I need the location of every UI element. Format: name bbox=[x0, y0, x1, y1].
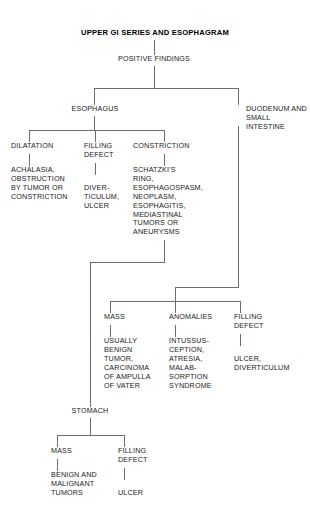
node-stomach-filling-defect: FILLING DEFECT bbox=[118, 447, 162, 465]
connector-title-to-root bbox=[154, 40, 155, 55]
connector-duodenum-jog-down bbox=[175, 287, 176, 301]
connector-constriction-to-stomach-horizontal bbox=[90, 262, 165, 263]
node-stomach-mass: MASS bbox=[51, 447, 101, 456]
connector-stomach-split-bar bbox=[57, 435, 124, 436]
connector-esophagus-filling-defect-to-detail bbox=[95, 163, 96, 175]
connector-stomach-down bbox=[90, 418, 91, 435]
node-esophagus: ESOPHAGUS bbox=[64, 105, 126, 114]
detail-duodenum-mass: USUALLY BENIGN TUMOR, CARCINOMA OF AMPUL… bbox=[104, 337, 166, 390]
node-dilatation: DILATATION bbox=[11, 142, 83, 151]
connector-constriction-detail-down bbox=[164, 240, 165, 262]
detail-anomalies: INTUSSUS- CEPTION, ATRESIA, MALAB- SORPT… bbox=[169, 337, 225, 390]
node-stomach: STOMACH bbox=[60, 407, 120, 416]
connector-main-split-bar bbox=[94, 88, 239, 89]
node-constriction: CONSTRICTION bbox=[133, 142, 203, 151]
connector-duodenum-long-down bbox=[238, 126, 239, 287]
node-duodenum-small-intestine: DUODENUM AND SMALL INTESTINE bbox=[246, 105, 310, 132]
flowchart-diagram: UPPER GI SERIES AND ESOPHAGRAM POSITIVE … bbox=[0, 0, 310, 529]
connector-to-esophagus bbox=[94, 88, 95, 105]
detail-esophagus-filling-defect: DIVER- TICULUM, ULCER bbox=[84, 184, 128, 211]
connector-to-duodenum bbox=[238, 88, 239, 105]
connector-root-down bbox=[154, 66, 155, 88]
node-esophagus-filling-defect: FILLING DEFECT bbox=[84, 142, 126, 160]
detail-stomach-mass: BENIGN AND MALIGNANT TUMORS bbox=[51, 471, 121, 498]
connector-esophagus-down bbox=[94, 116, 95, 130]
node-anomalies: ANOMALIES bbox=[169, 313, 225, 322]
connector-duodenum-filling-defect-to-detail bbox=[240, 334, 241, 346]
detail-constriction: SCHATZKI'S RING, ESOPHAGOSPASM, NEOPLASM… bbox=[133, 166, 223, 237]
node-duodenum-filling-defect: FILLING DEFECT bbox=[234, 313, 280, 331]
node-duodenum-mass: MASS bbox=[104, 313, 154, 322]
connector-esophagus-split-bar bbox=[29, 130, 164, 131]
detail-dilatation: ACHALASIA, OBSTRUCTION BY TUMOR OR CONST… bbox=[11, 166, 91, 202]
connector-stomach-filling-defect-to-detail bbox=[124, 468, 125, 480]
diagram-title: UPPER GI SERIES AND ESOPHAGRAM bbox=[60, 28, 250, 37]
connector-duodenum-jog-left bbox=[175, 287, 239, 288]
node-positive-findings: POSITIVE FINDINGS bbox=[104, 55, 204, 64]
connector-down-to-stomach bbox=[90, 262, 91, 407]
detail-stomach-filling-defect: ULCER bbox=[118, 489, 162, 498]
detail-duodenum-filling-defect: ULCER, DIVERTICULUM bbox=[234, 355, 310, 373]
